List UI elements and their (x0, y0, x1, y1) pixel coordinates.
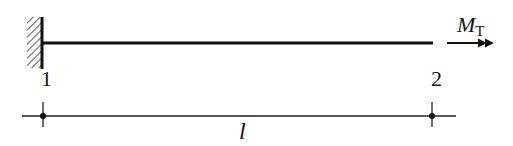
node-label-2: 2 (431, 66, 442, 92)
torque-label: MT (457, 12, 485, 38)
beam-diagram: 1 2 MT l (0, 0, 513, 146)
torque-arrow-icon (447, 39, 494, 48)
fixed-support-icon (27, 17, 42, 69)
torque-subscript: T (475, 23, 484, 39)
node-label-1: 1 (41, 66, 52, 92)
length-label: l (239, 118, 246, 145)
torque-symbol: M (457, 12, 475, 37)
